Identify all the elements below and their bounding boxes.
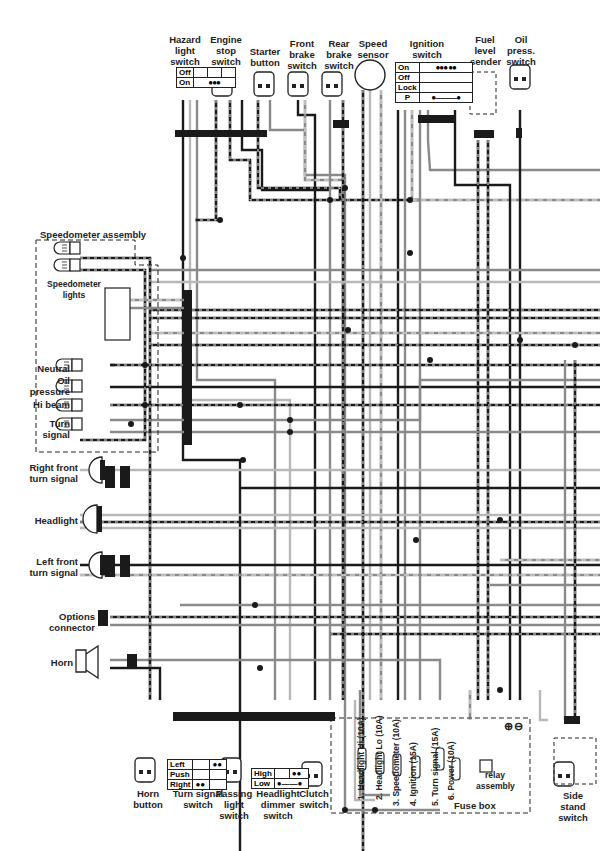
fuse-6-label: 6. Power (10A) bbox=[446, 741, 456, 800]
speedometer-lights-label: Speedometerlights bbox=[44, 279, 104, 301]
neutral-label: Neutral bbox=[20, 363, 70, 374]
fuel-level-sender-label: Fuellevelsender bbox=[470, 34, 500, 67]
hi-beam-label: Hi beam bbox=[20, 399, 70, 410]
engine-stop-switch-label: Enginestopswitch bbox=[208, 34, 244, 67]
fuse-4-label: 4. Ignition (15A) bbox=[408, 742, 418, 806]
fuse-1-label: 1. Headlight Hi (10A) bbox=[356, 717, 366, 800]
fuse-2-label: 2. Headlight Lo (10A) bbox=[374, 715, 384, 800]
right-front-turn-signal-label: Right frontturn signal bbox=[10, 462, 78, 484]
turn-signal-indicator-label: Turnsignal bbox=[20, 418, 70, 440]
left-front-turn-signal-label: Left frontturn signal bbox=[10, 556, 78, 578]
turn-signal-switch-table: Left●● Push Right●● bbox=[167, 759, 227, 790]
speed-sensor-label: Speedsensor bbox=[356, 38, 390, 60]
fuse-5-label: 5. Turn signal (15A) bbox=[430, 728, 440, 806]
clutch-switch-label: Clutchswitch bbox=[297, 788, 331, 810]
oil-press-switch-label: Oilpress.switch bbox=[506, 34, 536, 67]
fuse-box-label: Fuse box bbox=[454, 800, 496, 811]
battery-positive-terminal: ⊕ bbox=[504, 721, 513, 732]
relay-assembly-label: relayassembly bbox=[476, 770, 514, 792]
passing-light-switch-label: Passinglightswitch bbox=[214, 788, 254, 821]
headlight-label: Headlight bbox=[10, 515, 78, 526]
side-stand-switch-label: Sidestandswitch bbox=[553, 790, 593, 823]
rear-brake-switch-label: Rearbrakeswitch bbox=[322, 38, 356, 71]
oil-pressure-label: Oilpressure bbox=[20, 375, 70, 397]
headlight-dimmer-switch-label: Headlightdimmerswitch bbox=[253, 788, 303, 821]
fuse-3-label: 3. Speedometer (10A) bbox=[391, 719, 401, 806]
starter-button-label: Starterbutton bbox=[245, 46, 285, 68]
ignition-switch-label: Ignitionswitch bbox=[407, 38, 447, 60]
front-brake-switch-label: Frontbrakeswitch bbox=[286, 38, 318, 71]
hazard-switch-table: Off On●●● bbox=[176, 67, 236, 88]
headlight-dimmer-switch-table: High●● Low●——● bbox=[251, 768, 309, 789]
options-connector-label: Optionsconnector bbox=[10, 611, 95, 633]
battery-negative-terminal: ⊖ bbox=[514, 721, 523, 732]
speedometer-assembly-label: Speedometer assembly bbox=[40, 229, 146, 240]
hazard-switch-label: Hazardlightswitch bbox=[160, 34, 210, 67]
horn-label: Horn bbox=[10, 657, 73, 668]
horn-button-label: Hornbutton bbox=[128, 788, 168, 810]
ignition-switch-table: On●●● ●● Off Lock P●———● bbox=[395, 62, 473, 103]
